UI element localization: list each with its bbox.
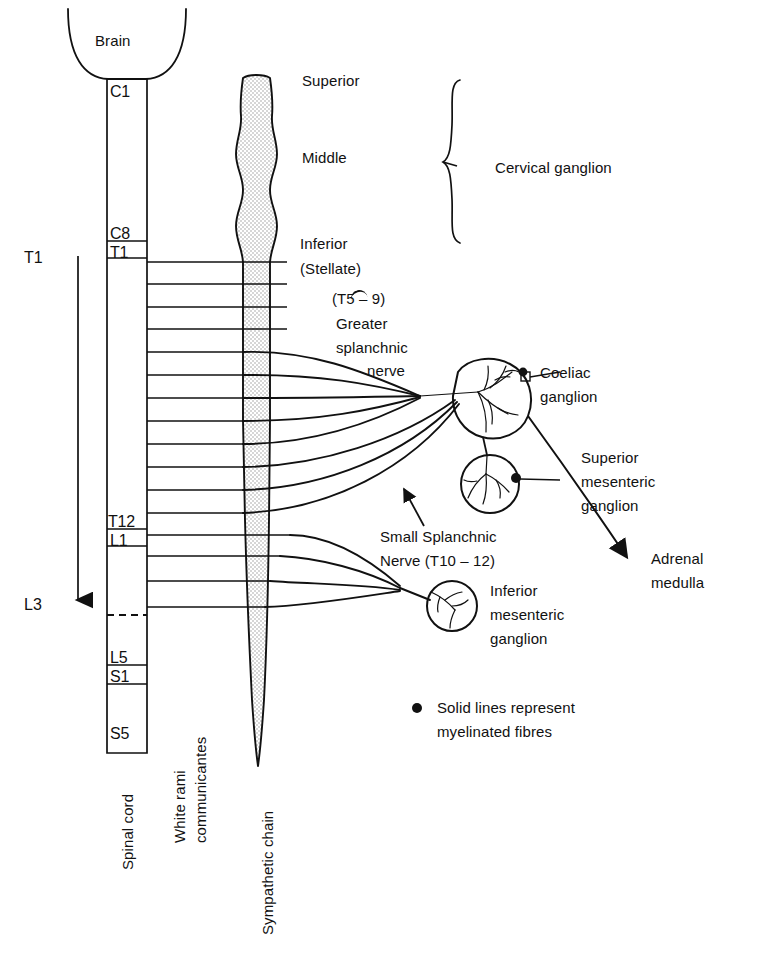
legend-line2: myelinated fibres: [437, 724, 552, 739]
small-splanchnic-pointer-arrow: [404, 489, 424, 526]
segment-label-c1: C1: [110, 84, 130, 100]
greater-splanchnic-line3: nerve: [367, 363, 405, 378]
superior-mesenteric-ganglion-shape: [461, 455, 560, 513]
chain-ganglion-label-superior: Superior: [302, 73, 360, 88]
small-splanchnic-nerve-fibres: [243, 400, 459, 513]
coeliac-ganglion-label-line1: Coeliac: [540, 365, 591, 380]
segment-label-l1: L1: [110, 533, 127, 549]
outflow-bottom-label-l3: L3: [24, 597, 42, 613]
legend-line1: Solid lines represent: [437, 700, 575, 715]
adrenal-medulla-label-line2: medulla: [651, 575, 704, 590]
white-rami-axis-label-line1: White rami: [172, 770, 187, 843]
chain-ganglion-label-stellate: (Stellate): [300, 261, 361, 276]
coeliac-ganglion-label-line2: ganglion: [540, 389, 598, 404]
inferior-mesenteric-label-line1: Inferior: [490, 583, 538, 598]
chain-ganglion-label-inferior: Inferior: [300, 236, 348, 251]
brain-label: Brain: [95, 33, 131, 48]
segment-label-t1: T1: [110, 245, 128, 261]
segment-label-t12: T12: [108, 514, 135, 530]
lumbar-splanchnic-fibres: [265, 535, 430, 607]
inferior-mesenteric-ganglion-shape: [427, 581, 477, 631]
small-splanchnic-line2: Nerve (T10 – 12): [380, 553, 495, 568]
greater-splanchnic-line1: Greater: [336, 316, 388, 331]
cervical-ganglion-label: Cervical ganglion: [495, 160, 612, 175]
legend-bullet-dot: [412, 703, 422, 713]
spinal-cord-axis-label: Spinal cord: [120, 794, 135, 870]
segment-label-l5: L5: [110, 650, 127, 666]
small-splanchnic-line1: Small Splanchnic: [380, 529, 497, 544]
interganglionic-connection: [483, 437, 487, 455]
superior-mesenteric-label-line3: ganglion: [581, 498, 639, 513]
outflow-top-label-t1: T1: [24, 250, 43, 266]
sympathetic-nervous-system-diagram: Brain C1 C8 T1 T12 L1 L5 S1 S5 T1 L3 Sup…: [0, 0, 758, 958]
segment-label-s1: S1: [110, 669, 129, 685]
segment-label-c8: C8: [110, 226, 130, 242]
white-rami-axis-label-line2: communicantes: [193, 737, 208, 843]
superior-mesenteric-label-line2: mesenteric: [581, 474, 655, 489]
segment-label-s5: S5: [110, 726, 129, 742]
chain-ganglion-label-middle: Middle: [302, 150, 347, 165]
inferior-mesenteric-label-line2: mesenteric: [490, 607, 564, 622]
greater-splanchnic-line2: splanchnic: [336, 340, 408, 355]
superior-mesenteric-label-line1: Superior: [581, 450, 639, 465]
adrenal-medulla-label-line1: Adrenal: [651, 551, 703, 566]
inferior-mesenteric-label-line3: ganglion: [490, 631, 548, 646]
cervical-ganglion-brace: [443, 80, 460, 243]
sympathetic-chain-axis-label: Sympathetic chain: [260, 811, 275, 935]
